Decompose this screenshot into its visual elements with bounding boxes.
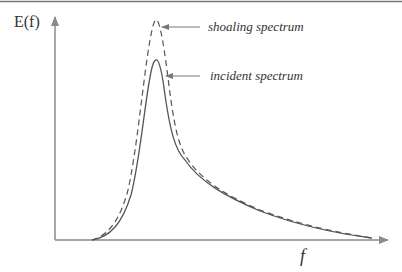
incident-spectrum-curve <box>92 60 372 240</box>
spectrum-diagram: E(f) f shoaling spectrum incident spectr… <box>0 0 402 272</box>
shoaling-spectrum-curve <box>92 20 372 240</box>
incident-label: incident spectrum <box>210 68 303 83</box>
x-axis-label: f <box>300 246 308 266</box>
shoaling-label: shoaling spectrum <box>208 19 304 34</box>
y-axis-label: E(f) <box>14 13 40 31</box>
